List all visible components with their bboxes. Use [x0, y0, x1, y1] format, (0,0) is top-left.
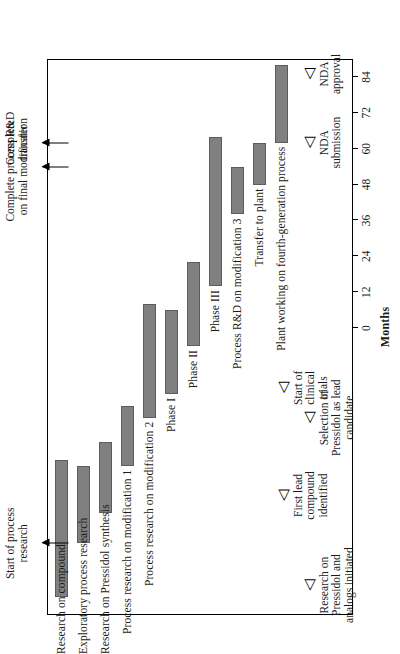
gantt-bar [231, 167, 244, 215]
milestone-label-line: First lead [292, 471, 304, 520]
gantt-bar [253, 143, 266, 185]
axis-tick [353, 255, 358, 256]
arrow-right-icon [43, 166, 69, 167]
axis-tick-label: 48 [360, 179, 372, 191]
gantt-bar [99, 442, 112, 514]
gantt-bar [165, 310, 178, 394]
triangle-marker-icon: ◁ [302, 137, 317, 149]
task-label: Process research on modification 2 [143, 422, 155, 654]
axis-tick [353, 219, 358, 220]
task-label: Process research on modification 1 [121, 470, 133, 654]
axis-tick-label: 24 [360, 251, 372, 263]
axis-tick-label: 84 [360, 71, 372, 83]
triangle-marker-icon: ◁ [302, 412, 317, 424]
axis-tick [353, 327, 358, 328]
milestone-label-line: Pressidol as lead [330, 379, 342, 456]
task-label: Exploratory process research [77, 547, 89, 654]
chart-canvas: Research on compoundExploratory process … [0, 0, 400, 654]
milestone-label-line: analogs initiated [343, 547, 355, 623]
milestone-label-line: NDA [318, 117, 330, 169]
axis-tick [353, 112, 358, 113]
gantt-bar [143, 304, 156, 418]
milestone-label-line: Research on [318, 547, 330, 623]
task-label: Process R&D on modification 3 [231, 218, 243, 654]
annotation-label-line: research [17, 507, 30, 579]
axis-tick-label: 12 [360, 286, 372, 298]
axis-tick-label: 0 [360, 325, 372, 331]
axis-tick [353, 291, 358, 292]
triangle-marker-icon: ◁ [302, 68, 317, 80]
annotation-label-line: transfer [17, 120, 30, 165]
milestone-label-line: approval [330, 54, 342, 94]
task-label: Research on Pressidol synthesis [99, 517, 111, 654]
axis-tick-label: 60 [360, 143, 372, 155]
milestone-label-line: identified [317, 471, 329, 520]
triangle-marker-icon: ◁ [276, 382, 291, 394]
axis-title-months: Months [378, 0, 393, 654]
axis-tick [353, 148, 358, 149]
task-label: Plant working on fourth-generation proce… [275, 147, 287, 654]
triangle-marker-icon: ◁ [302, 579, 317, 591]
task-label: Phase III [209, 290, 221, 654]
axis-tick [353, 184, 358, 185]
axis-tick-label: 36 [360, 215, 372, 227]
arrow-right-icon [43, 142, 69, 143]
annotation-label: Completetransfer [4, 120, 30, 165]
milestone-label-line: Start of [292, 371, 304, 405]
axis-tick [353, 76, 358, 77]
axis-tick-label: 72 [360, 107, 372, 119]
task-label: Research on compound [55, 601, 67, 654]
annotation-label-line: Complete [4, 120, 17, 165]
milestone-label-line: candidate [343, 379, 355, 456]
task-label: Phase II [187, 350, 199, 654]
triangle-marker-icon: ◁ [276, 490, 291, 502]
annotation-label-line: Start of process [4, 507, 17, 579]
milestone-label-line: NDA [318, 54, 330, 94]
milestone-label-line: trials [317, 371, 329, 405]
annotation-label: Start of processresearch [4, 507, 30, 579]
task-label: Transfer to plant [253, 189, 265, 654]
milestone-label: Start ofclinicaltrials [292, 371, 329, 405]
task-label: Phase I [165, 398, 177, 654]
milestone-label-line: clinical [304, 371, 316, 405]
milestone-label-line: Pressidol and [330, 547, 342, 623]
gantt-bar [209, 137, 222, 286]
milestone-label: First leadcompoundidentified [292, 471, 329, 520]
milestone-label-line: submission [330, 117, 342, 169]
milestone-label: NDAapproval [318, 54, 343, 94]
milestone-label-line: compound [304, 471, 316, 520]
gantt-bar [121, 406, 134, 466]
milestone-label: NDAsubmission [318, 117, 343, 169]
milestone-label: Research onPressidol andanalogs initiate… [318, 547, 355, 623]
gantt-bar [187, 262, 200, 346]
gantt-bar [275, 65, 288, 143]
